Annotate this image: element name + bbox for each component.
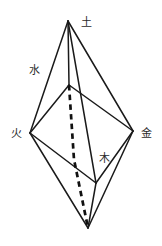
edge-bottom-to-left bbox=[30, 133, 88, 228]
edge-apex-to-left bbox=[30, 21, 68, 133]
vertex-label-metal: 金 bbox=[141, 128, 152, 139]
edge-apex-to-inner-upper bbox=[68, 21, 69, 85]
vertex-label-water: 水 bbox=[29, 65, 40, 76]
vertex-label-fire: 火 bbox=[11, 128, 22, 139]
edge-inner-upper-to-left bbox=[30, 85, 69, 133]
hidden-edge-group bbox=[69, 85, 88, 228]
edge-inner-upper-to-right bbox=[69, 85, 133, 131]
bipyramid-wireframe bbox=[0, 0, 162, 246]
vertex-label-wood: 木 bbox=[99, 153, 110, 164]
edge-inner-upper-to-bottom-hidden bbox=[69, 85, 88, 228]
diagram-canvas: 土 水 火 金 木 bbox=[0, 0, 162, 246]
edge-left-to-inner-lower bbox=[30, 133, 96, 183]
vertex-label-earth: 土 bbox=[81, 17, 92, 28]
edge-bottom-to-inner-lower bbox=[88, 183, 96, 228]
